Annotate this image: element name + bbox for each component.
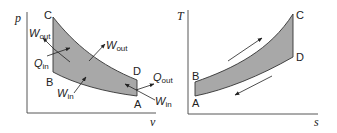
- pv-label-w-out-mid: Wout: [106, 40, 128, 53]
- pv-label-w-in-right: Win: [155, 96, 172, 109]
- ts-x-axis-label: s: [314, 116, 319, 128]
- pv-label-q-in: Qin: [34, 58, 49, 71]
- ts-cycle-area: [195, 14, 293, 96]
- ts-point-d: D: [296, 52, 304, 63]
- pv-y-axis-label: p: [15, 12, 21, 24]
- ts-point-a: A: [192, 98, 199, 109]
- pv-cycle-area: [53, 17, 137, 96]
- pv-label-w-out-left: Wout: [29, 28, 51, 41]
- ts-y-axis-label: T: [177, 10, 184, 22]
- pv-point-a: A: [134, 99, 141, 110]
- pv-point-b: B: [46, 77, 53, 88]
- pv-label-w-in-bottom: Win: [57, 88, 74, 101]
- ts-point-b: B: [192, 71, 199, 82]
- pv-x-axis-label: v: [150, 116, 155, 128]
- pv-point-c: C: [44, 10, 52, 21]
- pv-point-d: D: [133, 66, 141, 77]
- pv-label-q-out: Qout: [153, 72, 173, 85]
- ts-point-c: C: [296, 10, 304, 21]
